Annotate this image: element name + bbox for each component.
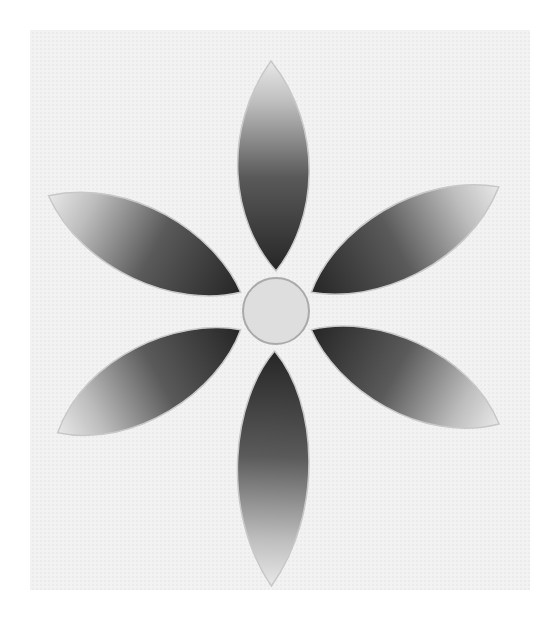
flower-center [243,278,309,344]
embroidery-image [0,0,554,630]
